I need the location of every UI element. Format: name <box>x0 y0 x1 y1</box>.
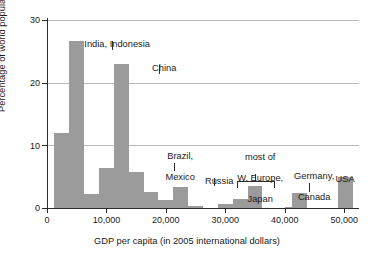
y-tick-label-30: 30 <box>22 16 40 25</box>
leader-w-europe-japan <box>255 174 256 181</box>
annotation-text: USA <box>336 174 355 184</box>
histogram-bar <box>84 194 99 208</box>
annotation-text: China <box>152 63 176 73</box>
y-tick-20 <box>42 83 48 84</box>
leader-brazil-mexico <box>174 163 175 171</box>
histogram-bar <box>188 206 203 208</box>
histogram-bar <box>114 64 129 208</box>
x-tick <box>344 208 345 213</box>
x-tick-label: 30,000 <box>195 215 255 225</box>
y-tick-10 <box>42 145 48 146</box>
x-tick-label: 40,000 <box>255 215 315 225</box>
leader-germany-canada <box>309 183 310 192</box>
y-tick-30 <box>42 20 48 21</box>
histogram-bar <box>144 192 159 208</box>
histogram-bar <box>158 200 173 208</box>
x-tick <box>47 208 48 213</box>
x-tick-label: 50,000 <box>314 215 374 225</box>
histogram-bar <box>129 172 144 208</box>
x-tick <box>166 208 167 213</box>
histogram-chart: Percentage of world population 30 20 10 … <box>0 0 374 274</box>
annotation-text-line1: Brazil, <box>167 151 193 161</box>
annotation-text-line3: Japan <box>248 194 273 204</box>
leader-india-indonesia <box>112 41 113 50</box>
gridline-20 <box>47 83 359 84</box>
annotation-usa: USA <box>317 163 363 195</box>
x-tick-label: 10,000 <box>76 215 136 225</box>
leader-china <box>159 65 160 74</box>
histogram-bar <box>54 133 69 208</box>
y-tick-label-20: 20 <box>22 79 40 88</box>
annotation-text-line1: most of <box>245 152 275 162</box>
y-tick-label-0: 0 <box>22 204 40 213</box>
histogram-bar <box>69 41 84 208</box>
x-axis-label: GDP per capita (in 2005 international do… <box>0 236 374 246</box>
y-axis-label: Percentage of world population <box>0 0 7 112</box>
gridline-30 <box>47 20 359 21</box>
x-tick <box>106 208 107 213</box>
x-tick-label: 20,000 <box>136 215 196 225</box>
y-tick-label-10: 10 <box>22 142 40 151</box>
annotation-text: India, Indonesia <box>84 39 150 49</box>
histogram-bar <box>99 168 114 208</box>
bracket-w-europe-japan <box>237 181 275 188</box>
x-tick-label: 0 <box>17 215 77 225</box>
